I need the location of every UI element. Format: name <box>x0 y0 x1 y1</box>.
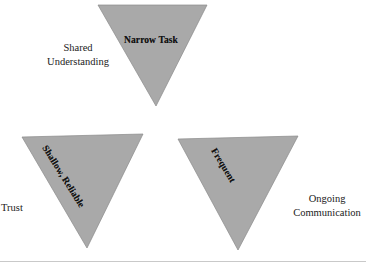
triangle-label-narrow-task: Narrow Task <box>124 36 178 46</box>
outer-label-line-1: Shared <box>33 41 123 55</box>
diagram-canvas: Narrow Task Shallow, Reliable Frequent S… <box>0 0 366 269</box>
outer-label-line-2: Understanding <box>33 55 123 69</box>
triangle-frequent <box>178 136 298 250</box>
outer-label-ongoing-communication: Ongoing Communication <box>288 192 366 219</box>
outer-label-trust: Trust <box>1 201 53 215</box>
outer-label-line-1: Trust <box>1 201 53 215</box>
outer-label-shared-understanding: Shared Understanding <box>33 41 123 68</box>
outer-label-line-2: Communication <box>288 206 366 220</box>
outer-label-line-1: Ongoing <box>288 192 366 206</box>
bottom-divider <box>0 261 366 262</box>
